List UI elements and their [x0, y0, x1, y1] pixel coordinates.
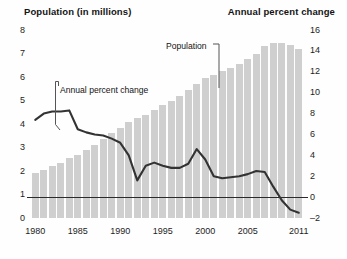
callout-leader-lines: [0, 0, 347, 259]
chart-figure: Population (in millions) Annual percent …: [0, 0, 347, 259]
